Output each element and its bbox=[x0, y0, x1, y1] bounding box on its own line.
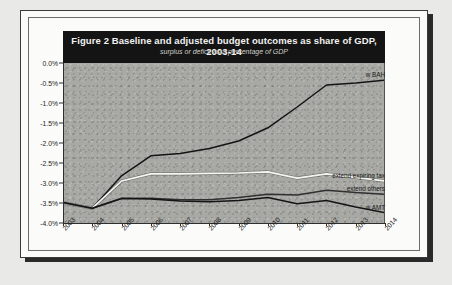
y-axis-tick-label: -0.5% bbox=[24, 80, 58, 87]
y-axis-tick-mark bbox=[59, 163, 63, 164]
y-axis-tick-mark bbox=[59, 103, 63, 104]
chart-figure: Figure 2 Baseline and adjusted budget ou… bbox=[63, 31, 385, 241]
y-axis-tick-label: 0.0% bbox=[24, 60, 58, 67]
y-axis-tick-mark bbox=[59, 203, 63, 204]
y-axis-tick-label: -1.5% bbox=[24, 120, 58, 127]
y-axis-tick-label: -1.0% bbox=[24, 100, 58, 107]
y-axis: 0.0%-0.5%-1.0%-1.5%-2.0%-2.5%-3.0%-3.5%-… bbox=[25, 63, 63, 223]
y-axis-tick-mark bbox=[59, 143, 63, 144]
y-axis-tick-label: -3.0% bbox=[24, 180, 58, 187]
y-axis-tick-label: -2.5% bbox=[24, 160, 58, 167]
y-axis-tick-label: -4.0% bbox=[24, 220, 58, 227]
y-axis-tick-mark bbox=[59, 63, 63, 64]
x-axis: 2003200420052006200720082009201020112012… bbox=[63, 224, 385, 264]
chart-title-banner: Figure 2 Baseline and adjusted budget ou… bbox=[63, 31, 385, 63]
chart-subtitle: surplus or deficit as a percentage of GD… bbox=[63, 48, 385, 55]
screenshot-stage: Figure 2 Baseline and adjusted budget ou… bbox=[0, 0, 452, 285]
scanned-page: Figure 2 Baseline and adjusted budget ou… bbox=[20, 10, 428, 258]
series-label-extend-others: extend others bbox=[323, 185, 385, 192]
series-label-baseline: w BAH bbox=[323, 71, 385, 78]
y-axis-tick-label: -2.0% bbox=[24, 140, 58, 147]
plot-area bbox=[63, 63, 385, 223]
series-label-with-amt: w AMT bbox=[323, 204, 385, 211]
y-axis-tick-label: -3.5% bbox=[24, 200, 58, 207]
y-axis-tick-mark bbox=[59, 83, 63, 84]
y-axis-line bbox=[63, 63, 64, 224]
series-line-layer bbox=[63, 63, 385, 223]
y-axis-tick-mark bbox=[59, 183, 63, 184]
series-label-extend-expiring-tax: extend expiring tax bbox=[323, 172, 385, 179]
y-axis-tick-mark bbox=[59, 123, 63, 124]
